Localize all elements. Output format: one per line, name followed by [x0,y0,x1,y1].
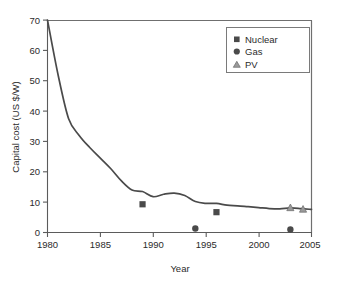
x-tick-label-1985: 1985 [90,239,111,250]
marker-gas [192,225,198,231]
legend-label-gas: Gas [245,46,263,57]
data-markers [139,201,306,232]
y-axis-ticks [43,20,48,232]
x-tick-label-2000: 2000 [249,239,270,250]
x-axis-ticks [48,233,312,238]
x-tick-label-1990: 1990 [143,239,164,250]
marker-gas [287,226,293,232]
x-tick-label-1995: 1995 [196,239,217,250]
chart-figure: 0 10 20 30 40 50 60 70 1980 1985 1990 19… [0,0,338,289]
x-tick-label-2005: 2005 [299,239,320,250]
x-axis-title: Year [170,263,189,274]
legend-square-icon [234,37,240,43]
y-tick-label-70: 70 [29,15,40,26]
capital-cost-line-chart: 0 10 20 30 40 50 60 70 1980 1985 1990 19… [0,0,338,289]
legend-circle-icon [234,48,240,54]
y-axis-title: Capital cost (US $/W) [10,81,21,172]
legend-label-nuclear: Nuclear [245,34,278,45]
y-tick-label-10: 10 [29,197,40,208]
y-tick-label-30: 30 [29,136,40,147]
y-tick-label-0: 0 [35,227,40,238]
y-tick-label-50: 50 [29,75,40,86]
legend-label-pv: PV [245,59,258,70]
marker-nuclear [139,201,145,207]
y-tick-label-20: 20 [29,166,40,177]
x-tick-label-1980: 1980 [37,239,58,250]
marker-nuclear [213,209,219,215]
y-tick-label-60: 60 [29,45,40,56]
y-tick-label-40: 40 [29,106,40,117]
chart-legend: Nuclear Gas PV [227,28,310,73]
